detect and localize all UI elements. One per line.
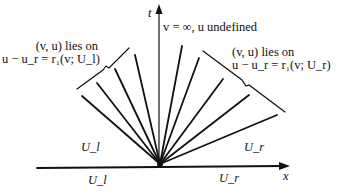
fan-line: [160, 46, 182, 164]
region-lower-right: U_r: [219, 172, 239, 185]
t-axis-arrow-icon: [156, 4, 163, 14]
origin-point: [157, 161, 163, 167]
fan-line: [115, 69, 160, 164]
region-lower-left: U_l: [88, 174, 107, 187]
region-upper-left: U_l: [81, 141, 100, 154]
region-upper-right: U_r: [244, 141, 264, 154]
x-axis-label: x: [283, 170, 289, 183]
left-annotation-line2: u − u_r = r₁(v; U_l): [2, 53, 100, 66]
t-axis-label: t: [148, 7, 151, 20]
right-annotation-line2: u − u_r = r₁(v; U_r): [232, 59, 331, 72]
top-label: v = ∞, u undefined: [163, 21, 257, 34]
